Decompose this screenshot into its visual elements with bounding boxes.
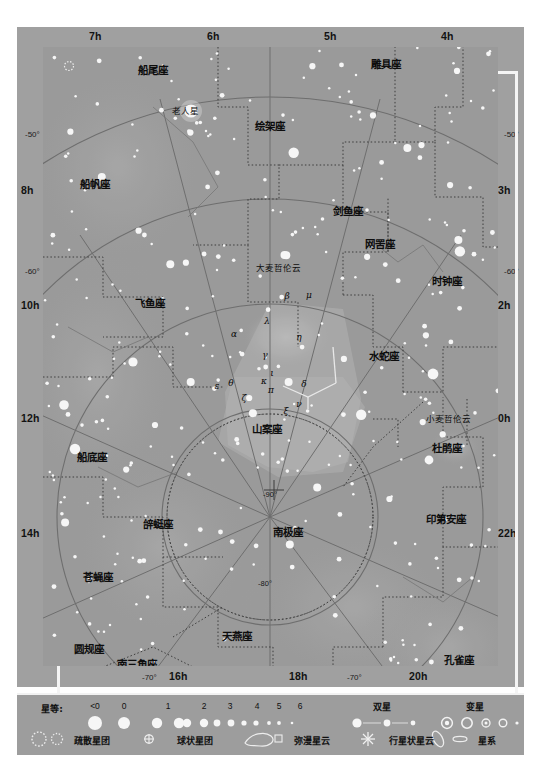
star — [240, 507, 243, 510]
magnitude-dot-1 — [174, 718, 184, 728]
star — [194, 213, 197, 216]
star — [97, 58, 102, 63]
double-star-icons — [352, 718, 415, 727]
star — [130, 519, 133, 522]
star — [379, 160, 384, 165]
star — [396, 278, 401, 283]
constellation-label-7: 大麦哲伦云 — [256, 261, 301, 273]
star — [380, 178, 383, 181]
variable-star-icons — [442, 718, 519, 729]
star — [85, 297, 88, 300]
star — [232, 258, 236, 262]
magnitude-dot-3 — [228, 720, 235, 727]
star — [123, 467, 129, 473]
star — [152, 422, 158, 428]
star — [365, 208, 369, 212]
constellation-label-10: 水蛇座 — [369, 348, 399, 363]
star — [69, 179, 73, 183]
star — [492, 89, 495, 92]
star — [448, 112, 451, 115]
star — [85, 228, 88, 231]
star — [261, 452, 265, 456]
star — [60, 512, 64, 516]
greek-label-7: κ — [261, 376, 267, 386]
star — [215, 79, 218, 82]
legend-content: <00123456星等:双星变星疏散星团球状星团弥漫星云行星状星云星系 — [17, 695, 524, 755]
star — [383, 640, 387, 644]
star — [73, 555, 77, 559]
constellation-label-5: 剑鱼座 — [333, 203, 363, 218]
constellation-label-4: 船帆座 — [80, 176, 110, 191]
star — [402, 644, 405, 647]
star — [428, 401, 432, 405]
star — [473, 411, 477, 415]
star — [172, 464, 175, 467]
ra-label-top-5h: 5h — [324, 30, 337, 42]
star — [57, 385, 60, 388]
greek-label-5: γ — [262, 350, 267, 360]
star — [151, 642, 155, 646]
star — [288, 439, 291, 442]
star — [462, 229, 466, 233]
star — [321, 217, 325, 221]
star — [445, 94, 448, 97]
star — [116, 552, 119, 555]
star — [418, 142, 424, 148]
star — [303, 77, 306, 80]
star — [484, 545, 487, 548]
star — [302, 227, 305, 230]
star — [339, 96, 342, 99]
star — [159, 350, 162, 353]
star — [428, 369, 439, 380]
star — [452, 62, 455, 65]
star — [159, 108, 164, 113]
star — [413, 644, 416, 647]
galaxy-icon — [430, 729, 467, 748]
star — [174, 117, 178, 121]
star — [107, 428, 110, 431]
star — [63, 496, 66, 499]
star — [400, 458, 403, 461]
star — [111, 377, 114, 380]
star — [236, 442, 240, 446]
star — [106, 395, 110, 399]
star — [349, 464, 352, 467]
star — [114, 487, 117, 490]
constellation-label-13: 杜鹃座 — [432, 440, 462, 455]
star — [341, 276, 345, 280]
star — [240, 352, 245, 357]
constellation-label-16: 辝蜓座 — [143, 516, 173, 531]
star — [44, 299, 47, 302]
star — [136, 228, 142, 234]
greek-label-1: μ — [306, 290, 312, 300]
star — [249, 99, 252, 102]
star — [350, 115, 353, 118]
star — [478, 580, 481, 583]
star — [313, 483, 321, 491]
star — [425, 456, 434, 465]
star — [394, 142, 397, 145]
galaxy-label: 星系 — [478, 734, 496, 747]
greek-label-6: ι — [270, 368, 274, 378]
star — [220, 93, 225, 98]
star — [101, 419, 105, 423]
star — [97, 630, 100, 633]
double-star-label: 双星 — [373, 700, 391, 713]
magnitude-label-<0: <0 — [90, 701, 100, 711]
star — [177, 98, 180, 101]
star — [487, 528, 491, 532]
star — [90, 597, 93, 600]
star — [246, 395, 252, 401]
star — [121, 580, 124, 583]
star — [496, 388, 499, 393]
dec-label-80: -80° — [258, 579, 272, 588]
star — [239, 329, 243, 333]
sky-area: 船尾座老人星绘架座雕具座船帆座剑鱼座网罟座大麦哲伦云时钟座飞鱼座水蛇座小麦哲伦云… — [43, 47, 498, 666]
variable-star-label: 变星 — [466, 700, 484, 713]
star — [135, 603, 138, 606]
star — [111, 283, 114, 286]
star — [350, 482, 354, 486]
star — [332, 595, 336, 599]
greek-label-14: ν — [296, 399, 301, 409]
star — [96, 102, 100, 106]
